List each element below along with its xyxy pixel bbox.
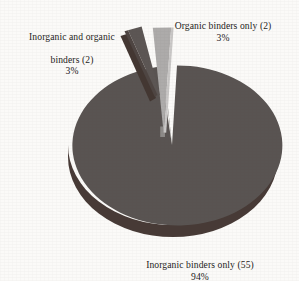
- label-organic-binders-only: Organic binders only (2) 3%: [150, 9, 296, 54]
- label-inorganic-and-organic-percent: 3%: [6, 65, 138, 76]
- label-organic-binders-only-percent: 3%: [150, 32, 296, 43]
- label-inorganic-and-organic-line1: Inorganic and organic: [29, 31, 115, 42]
- label-inorganic-binders-only: Inorganic binders only (55) 94%: [104, 248, 296, 281]
- label-inorganic-binders-only-percent: 94%: [104, 271, 296, 281]
- label-inorganic-and-organic-binders: Inorganic and organic binders (2) 3%: [6, 20, 138, 88]
- label-inorganic-binders-only-line1: Inorganic binders only (55): [146, 259, 254, 270]
- label-inorganic-and-organic-line2: binders (2): [51, 54, 94, 65]
- label-organic-binders-only-line1: Organic binders only (2): [175, 20, 272, 31]
- pie-chart-figure: Inorganic and organic binders (2) 3% Org…: [0, 0, 299, 281]
- main-slice-top-face: [72, 65, 282, 225]
